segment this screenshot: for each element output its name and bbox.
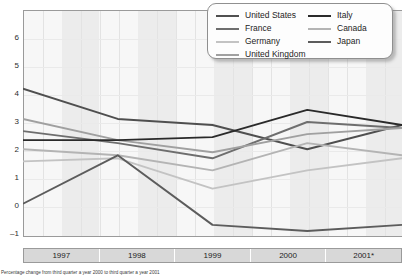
y-tick-label: –1	[10, 230, 19, 238]
chart-footnote: Percentage change from third quarter a y…	[1, 270, 416, 276]
legend-item-canada[interactable]: Canada	[308, 22, 367, 35]
chart-container: 6 5 4 3 2 1 0 –1 United States France Ge…	[0, 0, 417, 280]
x-tick-label-2001: 2001*	[326, 249, 401, 262]
series-line-japan	[23, 155, 402, 231]
x-tick-label-2000: 2000	[251, 249, 327, 262]
line-swatch-icon	[216, 15, 239, 17]
y-tick-label: 2	[15, 146, 19, 154]
x-tick-label-1997: 1997	[24, 249, 100, 262]
y-tick-label: 3	[15, 118, 19, 126]
line-swatch-icon	[216, 28, 239, 30]
line-swatch-icon	[308, 15, 331, 17]
legend-label: France	[245, 24, 271, 33]
y-tick-label: 6	[15, 34, 19, 42]
line-swatch-icon	[308, 41, 331, 43]
line-swatch-icon	[216, 41, 239, 43]
y-tick-label: 4	[15, 90, 19, 98]
y-tick-label: 1	[15, 174, 19, 182]
legend-item-germany[interactable]: Germany	[216, 35, 305, 48]
line-swatch-icon	[216, 54, 239, 56]
y-tick-label: 0	[15, 202, 19, 210]
line-swatch-icon	[308, 28, 331, 30]
legend-item-united-states[interactable]: United States	[216, 9, 305, 22]
legend-item-united-kingdom[interactable]: United Kingdom	[216, 48, 305, 61]
legend-item-japan[interactable]: Japan	[308, 35, 367, 48]
x-axis: 1997 1998 1999 2000 2001*	[23, 248, 402, 263]
legend-item-france[interactable]: France	[216, 22, 305, 35]
legend-item-italy[interactable]: Italy	[308, 9, 367, 22]
legend-column-left: United States France Germany United King…	[216, 9, 305, 61]
legend-label: United Kingdom	[245, 50, 305, 59]
legend-label: Canada	[337, 24, 367, 33]
series-line-germany	[23, 158, 402, 188]
legend-label: Germany	[245, 37, 280, 46]
legend-label: Italy	[337, 11, 353, 20]
x-tick-label-1999: 1999	[175, 249, 251, 262]
y-tick-label: 5	[15, 62, 19, 70]
y-axis: 6 5 4 3 2 1 0 –1	[0, 0, 23, 250]
x-tick-label-1998: 1998	[100, 249, 176, 262]
legend-column-right: Italy Canada Japan	[308, 9, 367, 48]
legend-label: United States	[245, 11, 296, 20]
legend-label: Japan	[337, 37, 360, 46]
chart-legend: United States France Germany United King…	[207, 3, 393, 59]
